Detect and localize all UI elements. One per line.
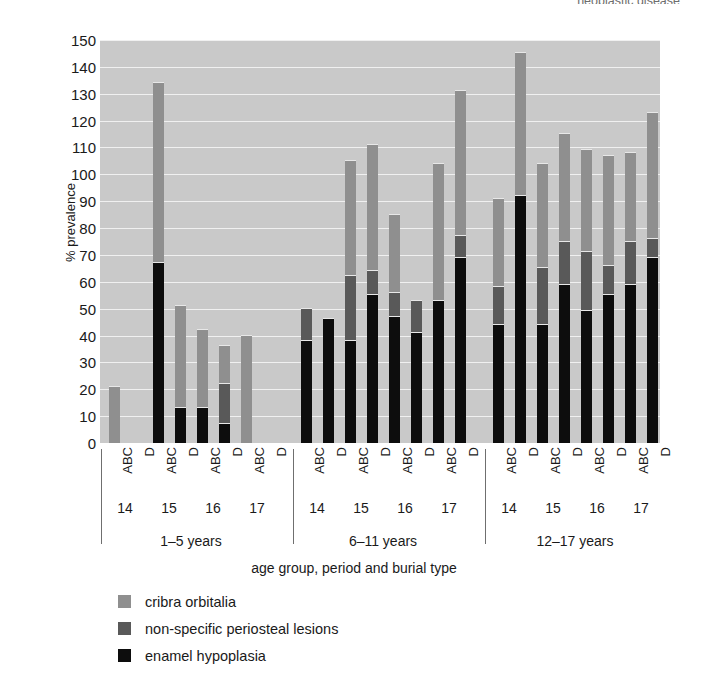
x-axis-burial-label: ABC (400, 447, 415, 474)
legend-label: cribra orbitalia (145, 594, 236, 610)
x-axis-age-group-label: 1–5 years (121, 533, 261, 549)
bar-segment-enamel-hypoplasia (301, 341, 312, 443)
bar-segment-cribra-orbitalia (153, 83, 164, 263)
x-axis-burial-label: D (334, 447, 349, 456)
legend-swatch-periosteal (118, 622, 131, 635)
bar-segment-enamel-hypoplasia (411, 333, 422, 443)
bar (301, 309, 312, 443)
x-axis-period-label: 17 (616, 500, 666, 516)
x-axis-burial-label: ABC (504, 447, 519, 474)
y-axis-tick: 80 (4, 221, 96, 236)
bar-segment-cribra-orbitalia (493, 199, 504, 288)
bar (241, 336, 252, 443)
bar-segment-periosteal-lesions (559, 242, 570, 285)
y-axis-tick: 40 (4, 328, 96, 343)
bar-segment-enamel-hypoplasia (625, 285, 636, 444)
bar-segment-cribra-orbitalia (581, 150, 592, 252)
x-axis-period-label: 14 (292, 500, 342, 516)
legend-item-cribra: cribra orbitalia (118, 588, 618, 615)
bar-segment-cribra-orbitalia (367, 145, 378, 271)
x-axis-burial-label: D (422, 447, 437, 456)
plot-area (100, 40, 660, 443)
x-axis-burial-label: ABC (208, 447, 223, 474)
legend-swatch-hypoplasia (118, 649, 131, 662)
y-axis-tick: 20 (4, 382, 96, 397)
x-axis-period-label: 17 (232, 500, 282, 516)
bar (197, 330, 208, 443)
bar-segment-enamel-hypoplasia (323, 319, 334, 443)
bar-segment-enamel-hypoplasia (603, 295, 614, 443)
bar (175, 306, 186, 443)
gridline (100, 282, 660, 283)
bar-segment-enamel-hypoplasia (581, 311, 592, 443)
y-axis-tick: 140 (4, 59, 96, 74)
bar-segment-cribra-orbitalia (175, 306, 186, 408)
gridline (100, 94, 660, 95)
x-axis-burial-label: D (570, 447, 585, 456)
bar-segment-enamel-hypoplasia (219, 424, 230, 443)
x-axis-period-label: 15 (144, 500, 194, 516)
bar-segment-cribra-orbitalia (241, 336, 252, 443)
bar-segment-enamel-hypoplasia (197, 408, 208, 443)
bar-segment-cribra-orbitalia (433, 164, 444, 301)
bar-segment-cribra-orbitalia (109, 387, 120, 443)
x-axis-period-labels: 141516171415161714151617 (0, 497, 708, 523)
bar (323, 319, 334, 443)
x-axis-title: age group, period and burial type (0, 560, 708, 576)
y-axis-tick: 60 (4, 274, 96, 289)
x-axis-burial-label: ABC (592, 447, 607, 474)
x-axis-burial-label: ABC (252, 447, 267, 474)
x-axis-burial-label: D (614, 447, 629, 456)
bar (581, 150, 592, 443)
gridline (100, 228, 660, 229)
bar-segment-enamel-hypoplasia (433, 301, 444, 443)
bar-segment-enamel-hypoplasia (537, 325, 548, 443)
gridline (100, 255, 660, 256)
x-axis-burial-label: ABC (548, 447, 563, 474)
y-axis-tick: 110 (4, 140, 96, 155)
bar-segment-enamel-hypoplasia (175, 408, 186, 443)
x-axis-period-label: 14 (100, 500, 150, 516)
bar-segment-enamel-hypoplasia (647, 258, 658, 443)
x-axis-age-group-label: 6–11 years (313, 533, 453, 549)
legend-swatch-cribra (118, 595, 131, 608)
x-axis-burial-label: D (186, 447, 201, 456)
bar-segment-enamel-hypoplasia (153, 263, 164, 443)
x-axis-burial-label: D (378, 447, 393, 456)
bar (153, 83, 164, 443)
gridline (100, 147, 660, 148)
top-caption: neoplastic disease (0, 0, 708, 4)
y-axis-tick: 150 (4, 33, 96, 48)
bar (411, 301, 422, 443)
gridline (100, 121, 660, 122)
gridline (100, 174, 660, 175)
bar-segment-enamel-hypoplasia (559, 285, 570, 444)
bar-segment-enamel-hypoplasia (367, 295, 378, 443)
bar-segment-cribra-orbitalia (515, 53, 526, 195)
x-axis-period-label: 17 (424, 500, 474, 516)
legend-label: enamel hypoplasia (145, 648, 266, 664)
bar (647, 113, 658, 443)
x-axis-burial-label: ABC (356, 447, 371, 474)
legend: cribra orbitalianon-specific periosteal … (118, 588, 618, 669)
x-axis-period-label: 16 (188, 500, 238, 516)
bar-segment-cribra-orbitalia (345, 161, 356, 277)
y-axis-tick: 10 (4, 409, 96, 424)
bar (625, 153, 636, 443)
legend-item-hypoplasia: enamel hypoplasia (118, 642, 618, 669)
bar (515, 53, 526, 443)
x-axis-burial-label: D (526, 447, 541, 456)
group-separator (293, 449, 294, 544)
bar-segment-periosteal-lesions (301, 309, 312, 341)
x-axis-burial-label: ABC (164, 447, 179, 474)
bar-segment-cribra-orbitalia (389, 215, 400, 293)
x-axis-burial-label: ABC (312, 447, 327, 474)
bar-segment-cribra-orbitalia (559, 134, 570, 241)
bar (433, 164, 444, 443)
bar-segment-cribra-orbitalia (197, 330, 208, 408)
x-axis-burial-label: D (230, 447, 245, 456)
bar-segment-periosteal-lesions (647, 239, 658, 258)
x-axis-burial-label: D (658, 447, 673, 456)
y-axis-tick: 70 (4, 247, 96, 262)
bar (109, 387, 120, 443)
